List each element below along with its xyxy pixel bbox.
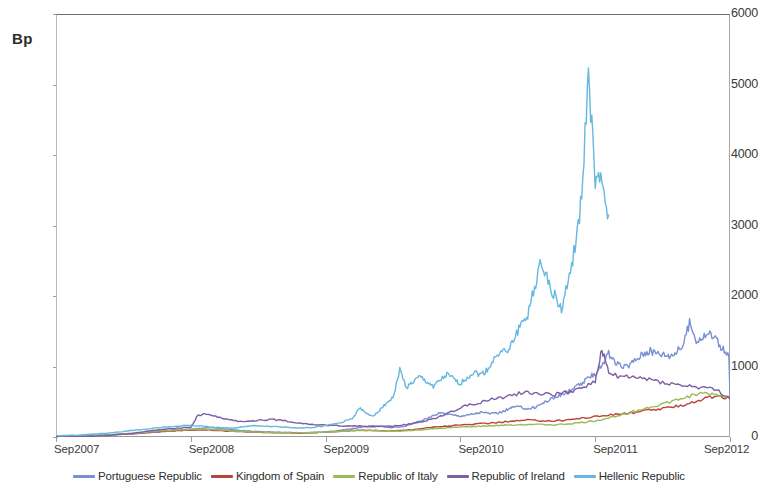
legend-item[interactable]: Portuguese Republic: [73, 470, 202, 482]
x-tick-label: Sep2011: [593, 443, 638, 455]
legend-item[interactable]: Hellenic Republic: [574, 470, 685, 482]
legend-item[interactable]: Republic of Ireland: [447, 470, 565, 482]
x-tick-mark: [326, 437, 327, 442]
legend-swatch-icon: [73, 475, 95, 478]
x-tick-mark: [730, 437, 731, 442]
legend-swatch-icon: [447, 475, 469, 478]
y-axis: [0, 0, 52, 488]
x-tick-mark: [56, 437, 57, 442]
x-tick-label: Sep2012: [704, 443, 749, 455]
x-tick-label: Sep2010: [458, 443, 503, 455]
x-tick-label: Sep2007: [54, 443, 99, 455]
legend-label: Kingdom of Spain: [236, 470, 324, 482]
legend-label: Republic of Ireland: [472, 470, 565, 482]
plot-lines: [56, 14, 730, 437]
x-tick-label: Sep2008: [189, 443, 234, 455]
x-tick-mark: [595, 437, 596, 442]
legend-swatch-icon: [574, 475, 596, 478]
legend-label: Portuguese Republic: [98, 470, 202, 482]
legend-label: Republic of Italy: [358, 470, 437, 482]
legend-swatch-icon: [333, 475, 355, 478]
series-line: [56, 350, 730, 436]
legend-item[interactable]: Republic of Italy: [333, 470, 437, 482]
series-line: [56, 68, 609, 436]
y-axis-unit-label: Bp: [12, 30, 33, 47]
chart-legend: Portuguese RepublicKingdom of SpainRepub…: [0, 470, 758, 482]
legend-swatch-icon: [211, 475, 233, 478]
chart-container: Bp 0100020003000400050006000 Sep2007Sep2…: [0, 0, 758, 488]
legend-item[interactable]: Kingdom of Spain: [211, 470, 324, 482]
x-tick-mark: [191, 437, 192, 442]
legend-label: Hellenic Republic: [599, 470, 685, 482]
x-tick-mark: [460, 437, 461, 442]
x-tick-label: Sep2009: [324, 443, 369, 455]
